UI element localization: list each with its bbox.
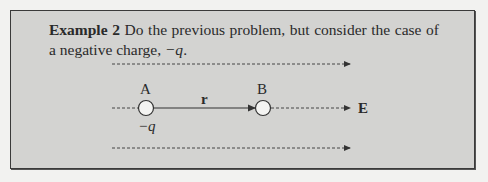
point-b-circle: [256, 101, 271, 116]
field-diagram: [0, 0, 488, 182]
vector-r-label: r: [201, 91, 208, 108]
field-e-label: E: [358, 100, 368, 117]
point-b-label: B: [257, 81, 267, 98]
charge-label: −q: [138, 118, 156, 135]
point-a-circle: [139, 101, 154, 116]
point-a-label: A: [140, 81, 151, 98]
